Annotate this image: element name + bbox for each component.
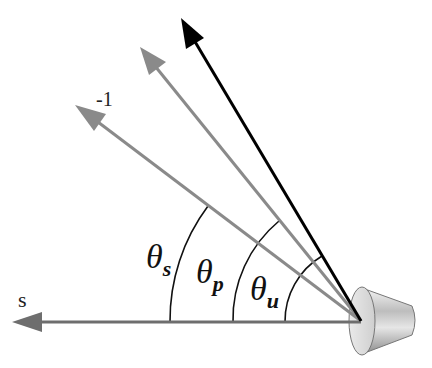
minus-one-label: -1 xyxy=(96,88,113,110)
angle-diagram: -1 s θs θp θu xyxy=(0,0,432,368)
s-axis-arrow xyxy=(12,312,361,332)
theta-p-label: θp xyxy=(196,253,224,296)
theta-u-label: θu xyxy=(250,270,279,313)
s-label: s xyxy=(18,287,27,312)
theta-s-label: θs xyxy=(146,238,171,281)
